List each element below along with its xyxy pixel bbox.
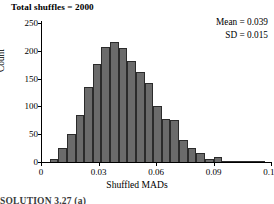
histogram-bar bbox=[248, 161, 257, 162]
y-axis-tick-label: 100 bbox=[25, 101, 39, 111]
x-axis-tick bbox=[41, 162, 42, 166]
x-axis-tick bbox=[156, 162, 157, 166]
histogram-bar bbox=[188, 148, 197, 162]
y-axis-tick-label: 150 bbox=[25, 74, 39, 84]
y-axis-tick-label: 200 bbox=[25, 46, 39, 56]
plot-area bbox=[41, 23, 271, 162]
chart-title: Total shuffles = 2000 bbox=[11, 2, 94, 12]
histogram-bar bbox=[231, 161, 240, 162]
histogram-bar bbox=[110, 42, 119, 162]
histogram-bar bbox=[67, 134, 76, 162]
histogram-bar bbox=[196, 153, 205, 162]
histogram-bar bbox=[179, 140, 188, 162]
histogram-bar bbox=[119, 48, 128, 162]
x-axis-tick-label: 0.03 bbox=[91, 167, 107, 177]
histogram-bar bbox=[93, 64, 102, 162]
y-axis-tick-label: 250 bbox=[25, 18, 39, 28]
histogram-bar bbox=[257, 161, 266, 162]
histogram-bar bbox=[58, 148, 67, 162]
histogram-bar bbox=[205, 159, 214, 162]
histogram-bar bbox=[170, 120, 179, 162]
histogram-bar bbox=[214, 157, 223, 162]
histogram-bar bbox=[153, 106, 162, 162]
x-axis-tick-label: 0.06 bbox=[148, 167, 164, 177]
histogram-bar bbox=[162, 119, 171, 162]
x-axis-tick bbox=[99, 162, 100, 166]
x-axis-tick bbox=[214, 162, 215, 166]
histogram-bar bbox=[101, 47, 110, 162]
footer-cut-text: SOLUTION 3.27 (a) bbox=[0, 196, 86, 204]
y-axis-tick-label: 50 bbox=[29, 129, 38, 139]
histogram-bar bbox=[84, 87, 93, 162]
x-axis-tick-label: 0.09 bbox=[206, 167, 222, 177]
histogram-bar bbox=[136, 72, 145, 162]
histogram-bar bbox=[76, 115, 85, 162]
histogram-bar bbox=[222, 161, 231, 162]
histogram-bar bbox=[127, 61, 136, 162]
histogram-bar bbox=[145, 83, 154, 163]
histogram-bar bbox=[239, 161, 248, 162]
x-axis-tick-label: 0.12 bbox=[263, 167, 274, 177]
histogram-bar bbox=[50, 159, 59, 162]
histogram-figure: Total shuffles = 2000 Mean = 0.039 SD = … bbox=[0, 0, 274, 204]
x-axis-label: Shuffled MADs bbox=[0, 179, 274, 190]
x-axis-tick-label: 0 bbox=[39, 167, 44, 177]
x-axis-tick bbox=[271, 162, 272, 166]
y-axis-tick-label: 0 bbox=[34, 157, 39, 167]
y-axis-label: Count bbox=[0, 49, 6, 72]
